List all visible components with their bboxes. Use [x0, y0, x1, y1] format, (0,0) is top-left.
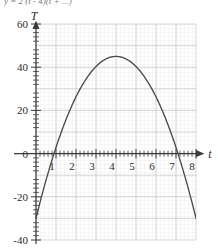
y-tick-labels: 60 40 20 0 -20 -40 — [13, 18, 28, 246]
parabola-chart-figure: 60 40 20 0 -20 -40 1 2 3 4 5 6 7 8 T t — [0, 0, 218, 249]
y-tick-label-40: 40 — [17, 61, 29, 73]
x-tick-label-7: 7 — [169, 160, 175, 172]
x-tick-label-4: 4 — [109, 160, 115, 172]
x-tick-label-2: 2 — [69, 160, 75, 172]
y-axis-label: T — [31, 9, 39, 23]
y-tick-label-0: 0 — [23, 148, 29, 160]
x-tick-label-1: 1 — [49, 160, 55, 172]
y-tick-label-minus40: -40 — [13, 234, 28, 246]
x-axis-label: t — [208, 147, 212, 161]
chart-svg: 60 40 20 0 -20 -40 1 2 3 4 5 6 7 8 T t — [0, 0, 218, 249]
x-tick-label-5: 5 — [129, 160, 135, 172]
y-tick-label-minus20: -20 — [13, 191, 28, 203]
x-tick-label-6: 6 — [149, 160, 155, 172]
y-tick-label-20: 20 — [17, 104, 29, 116]
y-tick-label-60: 60 — [17, 18, 29, 30]
x-tick-label-8: 8 — [189, 160, 195, 172]
x-tick-label-3: 3 — [89, 160, 95, 172]
